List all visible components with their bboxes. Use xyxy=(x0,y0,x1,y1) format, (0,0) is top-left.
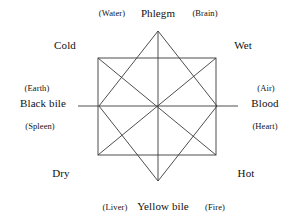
label-hot: Hot xyxy=(238,168,255,180)
label-cold: Cold xyxy=(54,40,76,52)
octagram-figure xyxy=(0,0,295,221)
label-blood: Blood xyxy=(251,98,278,110)
label-black-bile: Black bile xyxy=(20,98,66,110)
humours-diagram: (Water) Phlegm (Brain) Cold Wet Dry Hot … xyxy=(0,0,295,221)
label-yellow-bile: Yellow bile xyxy=(137,201,189,213)
label-brain: (Brain) xyxy=(192,9,217,18)
label-liver: (Liver) xyxy=(103,203,128,212)
label-phlegm: Phlegm xyxy=(141,8,175,20)
label-water: (Water) xyxy=(99,9,125,18)
label-spleen: (Spleen) xyxy=(25,122,55,131)
label-wet: Wet xyxy=(234,40,252,52)
label-dry: Dry xyxy=(52,168,69,180)
label-heart: (Heart) xyxy=(252,122,277,131)
label-earth: (Earth) xyxy=(25,84,50,93)
label-fire: (Fire) xyxy=(205,203,225,212)
label-air: (Air) xyxy=(257,84,275,93)
